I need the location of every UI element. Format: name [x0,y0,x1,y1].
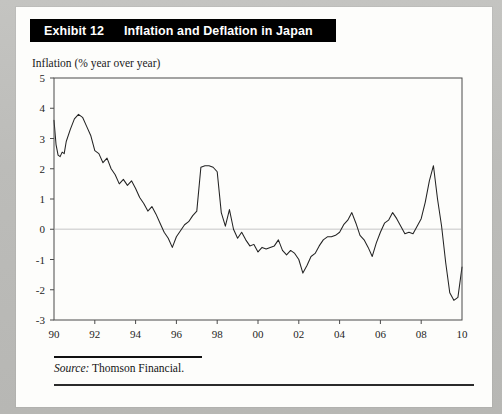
source-divider [54,356,202,358]
chart-container: 543210-1-2-3 9092949698000204060810 [16,7,492,407]
series-line-group [54,114,462,300]
y-tick-label: -3 [36,314,46,326]
source-note: Source: Thomson Financial. [54,362,184,374]
series-inflation-line [54,114,462,300]
y-tick-label: -1 [36,254,45,266]
plot-frame [54,78,462,320]
y-axis-ticks: 543210-1-2-3 [36,72,54,326]
bottom-divider [54,384,474,386]
x-tick-label: 02 [293,328,304,340]
x-tick-label: 92 [89,328,100,340]
x-axis-ticks: 9092949698000204060810 [49,320,469,340]
exhibit-card: Exhibit 12 Inflation and Deflation in Ja… [16,7,492,407]
x-tick-label: 96 [171,328,183,340]
x-tick-label: 94 [130,328,142,340]
y-tick-label: 1 [40,193,46,205]
source-label: Source: [54,362,89,374]
y-tick-label: 0 [40,223,46,235]
x-tick-label: 08 [416,328,428,340]
x-tick-label: 90 [49,328,61,340]
x-tick-label: 98 [212,328,224,340]
x-tick-label: 04 [334,328,346,340]
y-tick-label: 2 [40,163,46,175]
x-tick-label: 06 [375,328,387,340]
plot-frame-group [54,78,462,320]
y-tick-label: -2 [36,284,45,296]
x-tick-label: 10 [457,328,469,340]
inflation-line-chart: 543210-1-2-3 9092949698000204060810 [16,7,492,407]
source-text: Thomson Financial. [92,362,184,374]
y-tick-label: 4 [40,102,46,114]
x-tick-label: 00 [253,328,265,340]
y-tick-label: 3 [40,133,46,145]
y-tick-label: 5 [40,72,46,84]
